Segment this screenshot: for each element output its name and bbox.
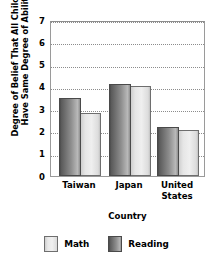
bar-japan-reading: [109, 84, 131, 176]
legend-swatch-reading-icon: [108, 236, 122, 252]
y-axis-tick-labels: 7 6 5 4 3 2 1 0: [28, 0, 45, 273]
legend-label-math: Math: [64, 239, 89, 249]
bar-chart: Degree of Belief That All Children Have …: [0, 0, 213, 273]
bar-group-japan: [109, 22, 151, 176]
bar-united-states-math: [178, 130, 199, 176]
bar-united-states-reading: [157, 127, 179, 177]
bar-taiwan-math: [80, 113, 101, 176]
y-tick-4: 4: [31, 83, 45, 92]
y-tick-1: 1: [31, 150, 45, 159]
y-tick-0: 0: [31, 173, 45, 182]
x-axis-tick-labels: Taiwan Japan United States: [50, 180, 205, 210]
y-tick-5: 5: [31, 61, 45, 70]
bar-taiwan-reading: [59, 98, 81, 176]
bar-japan-math: [130, 86, 151, 176]
y-tick-3: 3: [31, 106, 45, 115]
legend-label-reading: Reading: [128, 239, 169, 249]
y-tick-2: 2: [31, 128, 45, 137]
x-axis-title: Country: [50, 211, 205, 221]
plot-area: [50, 21, 205, 177]
y-axis-title-line-1: Degree of Belief That All Children: [10, 0, 21, 137]
x-tick-united-states: United States: [147, 180, 207, 202]
x-tick-united-states-line-2: States: [147, 191, 207, 202]
legend-item-math: Math: [44, 236, 89, 252]
y-tick-6: 6: [31, 39, 45, 48]
x-tick-united-states-line-1: United: [147, 180, 207, 191]
bar-group-united-states: [157, 22, 199, 176]
legend-item-reading: Reading: [108, 236, 169, 252]
legend-swatch-math-icon: [44, 236, 58, 252]
y-tick-7: 7: [31, 17, 45, 26]
bar-group-taiwan: [59, 22, 101, 176]
chart-legend: Math Reading: [0, 236, 213, 252]
